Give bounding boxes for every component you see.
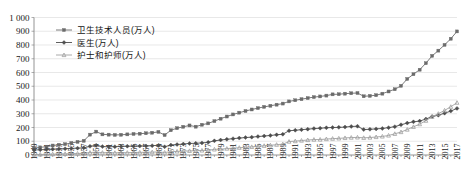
x-axis-label-2011: 2011 (416, 144, 425, 160)
point-2016 (449, 37, 452, 40)
point-1971 (169, 129, 172, 132)
point-2004 (375, 94, 378, 97)
point-1980 (225, 137, 229, 141)
point-2003 (368, 94, 371, 97)
y-axis-label-700: 700 (16, 54, 30, 64)
x-axis-label-1981: 1981 (229, 144, 238, 160)
point-1981 (231, 137, 235, 141)
legend-marker-1 (63, 29, 66, 32)
point-2008 (399, 123, 403, 127)
x-axis-label-1991: 1991 (291, 144, 300, 160)
x-axis-label-1993: 1993 (304, 144, 313, 160)
point-1985 (256, 135, 260, 139)
point-2011 (418, 68, 421, 71)
point-2008 (400, 84, 403, 87)
point-2006 (387, 90, 390, 93)
point-1965 (132, 132, 135, 135)
x-axis-label-1995: 1995 (316, 144, 325, 160)
point-2005 (380, 126, 384, 130)
legend-marker-2 (62, 41, 66, 45)
x-axis-label-2009: 2009 (403, 144, 412, 160)
point-1996 (325, 94, 328, 97)
point-1958 (88, 133, 91, 136)
x-axis-label-2013: 2013 (428, 144, 437, 160)
point-2009 (405, 121, 409, 125)
point-2013 (431, 54, 434, 57)
point-2017 (456, 30, 459, 33)
point-1962 (113, 133, 116, 136)
point-1983 (244, 136, 248, 140)
x-axis-label-1997: 1997 (329, 144, 338, 160)
point-2007 (393, 125, 397, 129)
point-1988 (275, 133, 279, 137)
point-2002 (362, 95, 365, 98)
point-1987 (268, 133, 272, 137)
x-axis-label-2007: 2007 (391, 144, 400, 160)
legend-label-2: 医生(万人) (77, 38, 119, 48)
legend-item-1[interactable]: 卫生技术人员(万人) (56, 25, 155, 35)
point-2017 (455, 106, 459, 110)
point-2002 (362, 128, 366, 132)
point-1997 (331, 93, 334, 96)
point-2010 (412, 73, 415, 76)
point-2003 (368, 127, 372, 131)
point-1964 (126, 133, 129, 136)
point-1969 (157, 130, 160, 133)
point-2007 (393, 88, 396, 91)
y-axis-label-400: 400 (16, 95, 30, 105)
point-1998 (337, 93, 340, 96)
point-1975 (194, 125, 197, 128)
point-1991 (294, 99, 297, 102)
point-1984 (250, 108, 253, 111)
point-1983 (244, 110, 247, 113)
point-1984 (250, 135, 254, 139)
point-1978 (213, 120, 216, 123)
y-axis-label-900: 900 (16, 26, 30, 36)
point-2005 (381, 92, 384, 95)
point-1967 (144, 132, 147, 135)
point-1968 (151, 131, 154, 134)
point-1956 (76, 140, 79, 143)
legend-item-2[interactable]: 医生(万人) (56, 38, 119, 48)
health-workforce-line-chart: 01002003004005006007008009001 0001949195… (0, 0, 462, 192)
point-1997 (331, 126, 335, 130)
point-1985 (256, 107, 259, 110)
point-1963 (120, 133, 123, 136)
point-1992 (299, 128, 303, 132)
point-2014 (437, 49, 440, 52)
point-2000 (349, 124, 353, 128)
point-1970 (163, 134, 166, 137)
point-1961 (107, 133, 110, 136)
point-1980 (225, 115, 228, 118)
point-1989 (281, 102, 284, 105)
point-1977 (207, 122, 210, 125)
point-1959 (95, 130, 98, 133)
y-axis-label-800: 800 (16, 40, 30, 50)
point-1988 (275, 103, 278, 106)
point-2006 (387, 126, 391, 130)
legend-label-1: 卫生技术人员(万人) (77, 25, 155, 35)
y-axis-label-200: 200 (16, 123, 30, 133)
point-1986 (263, 105, 266, 108)
point-1993 (306, 97, 309, 100)
y-axis-label-500: 500 (16, 81, 30, 91)
point-1994 (312, 96, 315, 99)
point-1974 (188, 124, 191, 127)
x-axis-label-1975: 1975 (192, 144, 201, 160)
point-1973 (182, 125, 185, 128)
point-1957 (82, 139, 85, 142)
point-1982 (238, 111, 241, 114)
point-2000 (350, 92, 353, 95)
chart-canvas: 01002003004005006007008009001 0001949195… (0, 0, 462, 192)
point-1976 (200, 123, 203, 126)
point-1998 (337, 125, 341, 129)
point-1995 (319, 95, 322, 98)
point-1989 (281, 132, 285, 136)
point-1999 (343, 125, 347, 129)
point-1995 (318, 126, 322, 130)
point-1953 (57, 143, 60, 146)
point-1999 (344, 92, 347, 95)
point-2016 (449, 109, 453, 113)
point-1952 (51, 144, 54, 147)
point-1992 (300, 98, 303, 101)
